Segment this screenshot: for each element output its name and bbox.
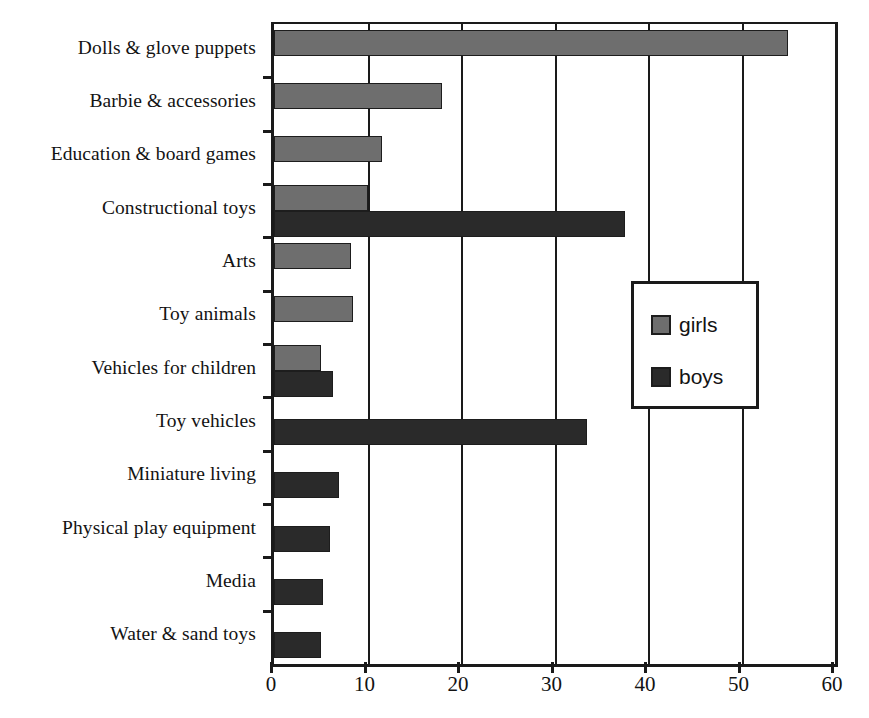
category-label: Physical play equipment [62, 518, 256, 538]
category-tick [263, 610, 274, 613]
category-label: Barbie & accessories [89, 91, 256, 111]
bar-girls [274, 83, 442, 109]
category-label: Media [206, 571, 256, 591]
x-axis-tick-label: 50 [728, 674, 749, 695]
category-tick [263, 396, 274, 399]
legend-swatch-icon [651, 315, 671, 335]
category-label: Toy vehicles [156, 411, 256, 431]
bar-boys [274, 472, 339, 498]
category-tick [263, 183, 274, 186]
legend-label: boys [679, 366, 723, 387]
category-tick [263, 236, 274, 239]
legend-entry-boys: boys [651, 366, 723, 387]
bar-girls [274, 345, 321, 371]
category-label: Toy animals [159, 304, 256, 324]
category-label: Miniature living [127, 464, 256, 484]
bar-girls [274, 30, 788, 56]
legend-label: girls [679, 314, 718, 335]
x-axis-tick-label: 0 [266, 674, 277, 695]
category-label: Vehicles for children [91, 358, 256, 378]
x-axis-tick-label: 20 [448, 674, 469, 695]
category-tick [263, 290, 274, 293]
x-axis-tick-label: 10 [354, 674, 375, 695]
x-axis-tick-label: 30 [541, 674, 562, 695]
bar-girls [274, 185, 368, 211]
bar-boys [274, 419, 587, 445]
x-axis-tick-label: 40 [635, 674, 656, 695]
bar-girls [274, 296, 353, 322]
bar-boys [274, 371, 333, 397]
bar-boys [274, 526, 330, 552]
bar-girls [274, 136, 382, 162]
bar-girls [274, 243, 351, 269]
category-label: Constructional toys [102, 198, 256, 218]
bar-boys [274, 632, 321, 658]
x-axis: 0102030405060 [271, 662, 832, 718]
category-tick [263, 343, 274, 346]
category-tick [263, 450, 274, 453]
bar-chart: Dolls & glove puppetsBarbie & accessorie… [0, 0, 869, 718]
category-label: Education & board games [51, 144, 256, 164]
category-tick [263, 556, 274, 559]
bar-boys [274, 211, 625, 237]
legend-entry-girls: girls [651, 314, 718, 335]
legend-swatch-icon [651, 367, 671, 387]
bar-boys [274, 579, 323, 605]
category-label: Water & sand toys [110, 624, 256, 644]
x-axis-tick-label: 60 [822, 674, 843, 695]
chart-legend: girlsboys [631, 281, 759, 409]
category-tick [263, 130, 274, 133]
category-label: Dolls & glove puppets [78, 38, 256, 58]
category-axis: Dolls & glove puppetsBarbie & accessorie… [0, 22, 265, 662]
category-tick [263, 76, 274, 79]
category-tick [263, 503, 274, 506]
category-label: Arts [222, 251, 256, 271]
